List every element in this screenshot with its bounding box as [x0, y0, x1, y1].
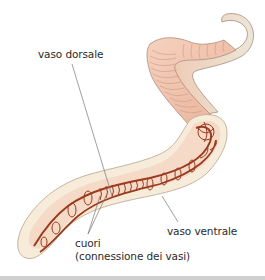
earthworm-illustration [0, 0, 265, 280]
label-connessione-dei-vasi: (connessione dei vasi) [75, 250, 190, 262]
label-vaso-ventrale: vaso ventrale [167, 225, 237, 237]
worm-upper-body [147, 13, 253, 124]
bottom-border [0, 276, 265, 280]
label-vaso-dorsale: vaso dorsale [38, 48, 103, 60]
diagram-canvas: vaso dorsale vaso ventrale cuori (connes… [0, 0, 265, 280]
label-cuori: cuori [75, 237, 101, 249]
